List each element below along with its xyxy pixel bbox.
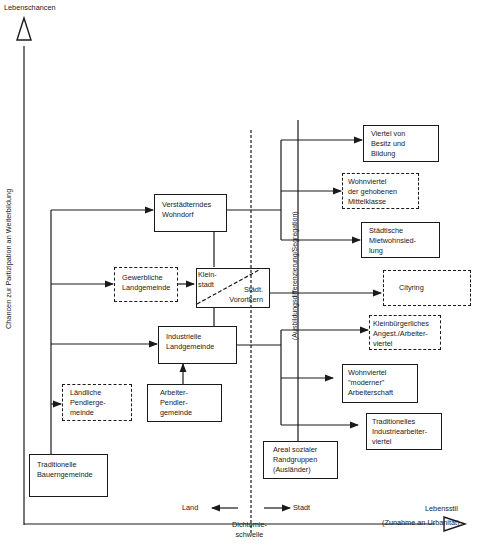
segregation-label: (Ausbildungsdifferenzierung/Segregation) <box>291 211 298 340</box>
node-kleinstadt: Klein- stadt <box>198 270 217 290</box>
x-axis-title: Lebensstil <box>425 504 458 514</box>
x-axis-subtitle: (Zunahme an Urbanität) <box>382 518 459 528</box>
node-wohnviertel-gehobene-mittelklasse: Wohnviertel der gehobenen Mittelklasse <box>342 173 419 209</box>
node-staedt-vorortkern: Städt. Vorortkern <box>229 285 263 305</box>
node-kleinstadt-vorortkern: Klein- stadt Städt. Vorortkern <box>196 268 270 308</box>
node-traditionelle-bauerngemeinde: Traditionelle Bauerngemeinde <box>29 454 108 497</box>
node-viertel-besitz-bildung: Viertel von Besitz und Bildung <box>363 125 439 162</box>
node-areal-sozialer-randgruppen: Areal sozialer Randgruppen (Ausländer) <box>263 441 338 479</box>
node-industrielle-landgemeinde: Industrielle Landgemeinde <box>158 326 237 364</box>
node-arbeiter-pendlergemeinde: Arbeiter- Pendler- gemeinde <box>147 384 222 422</box>
node-cityring: Cityring <box>383 270 471 306</box>
dichotomy-threshold-label: Dichtomie- schwelle <box>232 520 267 540</box>
node-gewerbliche-landgemeinde: Gewerbliche Landgemeinde <box>114 267 178 302</box>
node-verstaedterndes-wohndorf: Verstädterndes Wohndorf <box>154 194 227 232</box>
node-staedtische-mietwohnsiedlung: Städtische Mietwohnsied- lung <box>361 222 440 258</box>
y-axis-label: Chancen zur Partizipation an Weiterbildu… <box>4 189 13 329</box>
node-traditionelles-industriearbeiterviertel: Traditionelles Industriearbeiter- vierte… <box>366 413 442 450</box>
y-axis-title: Lebenschancen <box>4 3 56 13</box>
y-axis-arrow-icon <box>17 18 31 40</box>
node-laendliche-pendlergemeinde: Ländliche Pendlerge- meinde <box>62 384 132 421</box>
node-kleinbuergerliches-viertel: Kleinbürgerliches Angest./Arbeiter- vier… <box>369 315 441 350</box>
stadt-label: Stadt <box>293 503 310 513</box>
land-label: Land <box>182 503 198 513</box>
node-wohnviertel-moderner-arbeiterschaft: Wohnviertel "moderner" Arbeiterschaft <box>342 364 418 403</box>
